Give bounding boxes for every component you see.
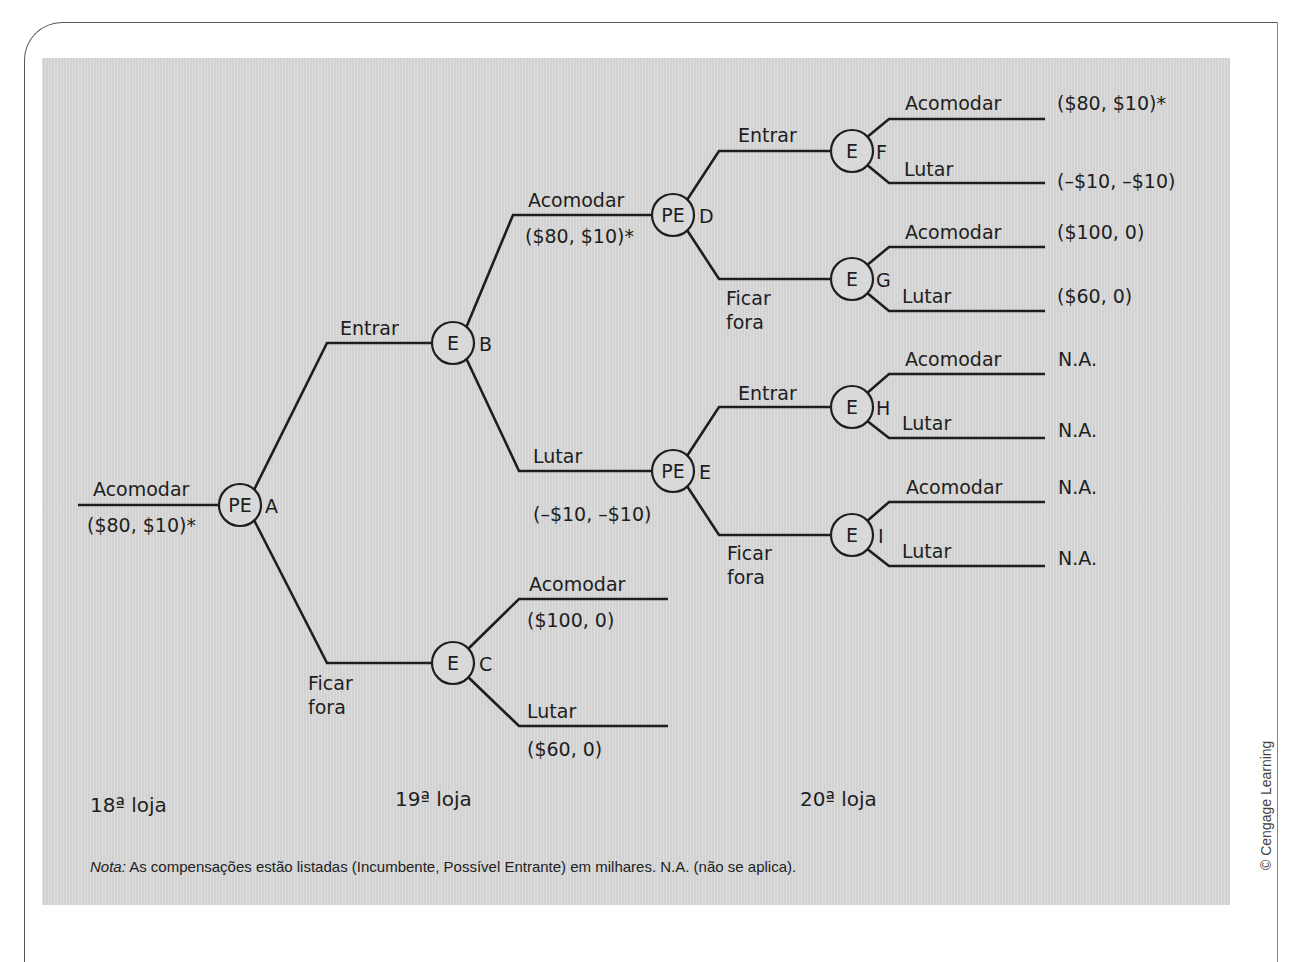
node-b-id: B [479,333,492,355]
node-i-player: E [846,524,858,546]
root-branch-label: Acomodar [93,478,190,500]
edge-d-g-label-2: fora [726,311,764,333]
edge-i-fight [866,548,1045,566]
node-d-player: PE [661,204,684,226]
edge-g-fight-label: Lutar [902,285,951,307]
node-h-player: E [846,396,858,418]
edge-h-fight-payoff: N.A. [1058,419,1097,441]
note-prefix: Nota: [90,858,126,875]
edge-f-fight-label: Lutar [904,158,953,180]
edge-d-g [687,230,832,279]
edge-c-accommodate-payoff: ($100, 0) [527,609,614,631]
stage-label-19: 19ª loja [395,787,472,811]
edge-a-c-label-1: Ficar [308,672,353,694]
edge-e-h-label: Entrar [738,382,797,404]
edge-e-h [687,407,832,456]
node-i-id: I [878,525,884,547]
copyright-credit: © Cengage Learning [1258,741,1274,870]
edge-c-fight-payoff: ($60, 0) [527,738,602,760]
edge-b-d-label: Acomodar [528,189,625,211]
edge-g-fight [866,292,1045,311]
edge-f-fight [866,164,1045,183]
edge-e-i-label-2: fora [727,566,765,588]
edge-g-accommodate-label: Acomodar [905,221,1002,243]
edge-g-accommodate [866,247,1045,266]
edge-d-f-label: Entrar [738,124,797,146]
figure-caption-clipped [44,924,524,934]
edge-h-accommodate-label: Acomodar [905,348,1002,370]
node-d-id: D [699,205,714,227]
node-e-player: PE [661,460,684,482]
edge-e-i-label-1: Ficar [727,542,772,564]
edge-f-accommodate-payoff: ($80, $10)* [1057,92,1166,114]
edge-c-fight-label: Lutar [527,700,576,722]
edge-f-accommodate [866,119,1045,138]
stage-label-20: 20ª loja [800,787,877,811]
edge-e-i [687,486,832,535]
node-a-player: PE [228,494,251,516]
edge-f-fight-payoff: (–$10, –$10) [1057,170,1175,192]
node-e-id: E [699,461,711,483]
note-text: As compensações estão listadas (Incumben… [126,858,796,875]
node-f-player: E [846,140,858,162]
root-branch-payoff: ($80, $10)* [87,514,196,536]
edge-i-accommodate-payoff: N.A. [1058,476,1097,498]
edge-d-f [687,151,832,200]
node-g-id: G [876,269,891,291]
node-f-id: F [876,141,887,163]
edge-h-accommodate-payoff: N.A. [1058,348,1097,370]
edge-a-c [254,520,433,663]
edge-i-fight-payoff: N.A. [1058,547,1097,569]
edge-h-accommodate [866,374,1045,394]
node-c-player: E [447,652,459,674]
edge-a-b [254,343,433,490]
edge-a-c-label-2: fora [308,696,346,718]
edge-b-d-payoff: ($80, $10)* [525,225,634,247]
edge-g-accommodate-payoff: ($100, 0) [1057,221,1144,243]
edge-b-e-label: Lutar [533,445,582,467]
edge-b-e-payoff: (–$10, –$10) [533,503,651,525]
edge-d-g-label-1: Ficar [726,287,771,309]
edge-i-accommodate-label: Acomodar [906,476,1003,498]
edge-i-fight-label: Lutar [902,540,951,562]
node-c-id: C [479,653,492,675]
stage-label-18: 18ª loja [90,793,167,817]
edge-a-b-label: Entrar [340,317,399,339]
edge-c-accommodate-label: Acomodar [529,573,626,595]
edge-h-fight-label: Lutar [902,412,951,434]
edge-i-accommodate [866,502,1045,522]
node-a-id: A [265,495,278,517]
node-h-id: H [876,397,890,419]
figure-note: Nota: As compensações estão listadas (In… [90,858,796,875]
node-b-player: E [447,332,459,354]
node-g-player: E [846,268,858,290]
edge-f-accommodate-label: Acomodar [905,92,1002,114]
edge-g-fight-payoff: ($60, 0) [1057,285,1132,307]
edge-h-fight [866,420,1045,438]
